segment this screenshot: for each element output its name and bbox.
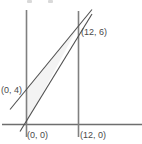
point-label-x12-y6: (12, 6) [81,27,107,37]
point-label-x12-y0: (12, 0) [80,130,106,140]
plot-canvas [0,0,142,144]
point-label-x0-y4: (0, 4) [1,85,22,95]
line-through-0-4 [10,10,92,110]
geometry-figure: (0, 0) (12, 0) (0, 4) (12, 6) [0,0,142,144]
point-label-origin: (0, 0) [27,130,48,140]
